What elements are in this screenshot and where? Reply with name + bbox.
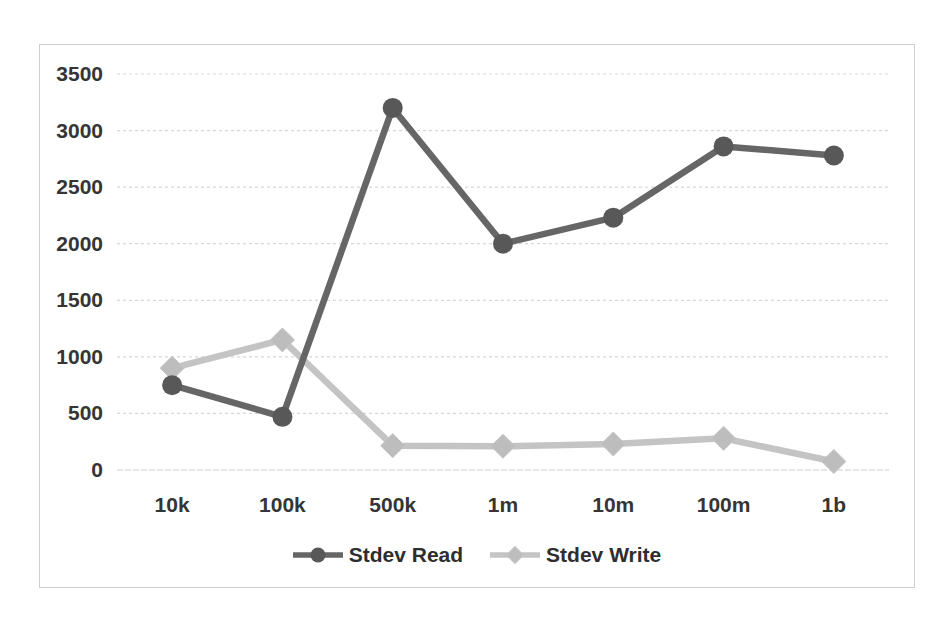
data-point-stdev-read-100k [272, 407, 292, 427]
series-line-stdev-read [172, 108, 834, 417]
legend: Stdev Read Stdev Write [39, 541, 915, 569]
legend-read-circle-icon [310, 548, 325, 563]
y-tick-label-0: 0 [91, 458, 103, 481]
data-point-stdev-read-500k [383, 98, 403, 118]
x-tick-label-10k: 10k [155, 493, 190, 516]
legend-item-stdev-write: Stdev Write [490, 543, 661, 567]
x-tick-label-500k: 500k [369, 493, 416, 516]
legend-label-read: Stdev Read [349, 543, 463, 567]
data-point-stdev-read-10m [603, 208, 623, 228]
y-tick-label-3000: 3000 [56, 119, 103, 142]
data-point-stdev-read-100m [714, 136, 734, 156]
data-point-stdev-read-1b [824, 145, 844, 165]
legend-marker-read-icon [293, 546, 343, 564]
legend-item-stdev-read: Stdev Read [293, 543, 463, 567]
data-point-stdev-read-1m [493, 234, 513, 254]
legend-label-write: Stdev Write [546, 543, 661, 567]
x-tick-label-1m: 1m [488, 493, 518, 516]
x-tick-label-10m: 10m [592, 493, 634, 516]
y-tick-label-1000: 1000 [56, 345, 103, 368]
chart-figure: 050010001500200025003000350010k100k500k1… [0, 0, 951, 628]
legend-marker-write-icon [490, 546, 540, 564]
y-tick-label-2000: 2000 [56, 232, 103, 255]
y-tick-label-3500: 3500 [56, 62, 103, 85]
data-point-stdev-write-100m [712, 426, 736, 450]
x-tick-label-100k: 100k [259, 493, 306, 516]
legend-write-diamond-icon [507, 547, 524, 564]
data-point-stdev-read-10k [162, 375, 182, 395]
y-tick-label-1500: 1500 [56, 288, 103, 311]
y-tick-label-2500: 2500 [56, 175, 103, 198]
x-tick-label-100m: 100m [697, 493, 751, 516]
data-point-stdev-write-1m [491, 434, 515, 458]
y-tick-label-500: 500 [68, 401, 103, 424]
plot-svg: 050010001500200025003000350010k100k500k1… [0, 0, 951, 628]
data-point-stdev-write-10m [601, 432, 625, 456]
x-tick-label-1b: 1b [822, 493, 847, 516]
